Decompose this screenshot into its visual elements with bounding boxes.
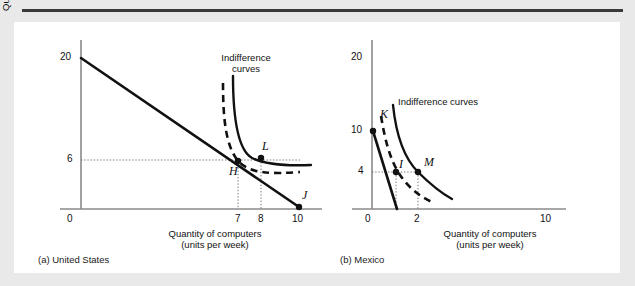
- mexico-indifference-curve-solid: [393, 105, 452, 199]
- mexico-ytick-4: 4: [358, 165, 364, 176]
- us-xtick-10: 10: [292, 213, 303, 224]
- us-xaxis-title: Quantity of computers (units per week): [140, 228, 290, 250]
- mexico-xtick-10: 10: [540, 213, 551, 224]
- mexico-point-endpoint: [370, 128, 376, 134]
- mexico-panel-caption: (b) Mexico: [340, 254, 384, 265]
- us-ppf: [81, 58, 299, 207]
- mexico-yaxis-title: Quantity of clothing (units per week): [0, 0, 11, 11]
- us-xtick-7: 7: [235, 213, 241, 224]
- mexico-ytick-10: 10: [351, 124, 362, 135]
- mexico-xaxis-title: Quantity of computers (units per week): [415, 228, 565, 250]
- mexico-point-label-M: M: [424, 155, 434, 170]
- mexico-axes: [352, 40, 566, 209]
- us-point-L: [258, 155, 264, 161]
- us-xtick-8: 8: [258, 213, 264, 224]
- us-ytick-20: 20: [60, 51, 71, 62]
- mexico-xaxis-title-line2: (units per week): [415, 239, 565, 250]
- us-point-label-J: J: [302, 188, 307, 203]
- mexico-xtick-2: 2: [414, 213, 420, 224]
- us-panel-caption: (a) United States: [38, 254, 109, 265]
- mexico-xtick-0: 0: [365, 213, 371, 224]
- us-xaxis-title-line1: Quantity of computers: [140, 228, 290, 239]
- mexico-indifference-curves-label: Indifference curves: [398, 96, 528, 107]
- us-ytick-6: 6: [67, 153, 73, 164]
- us-indifference-curve-solid: [233, 76, 311, 165]
- mexico-xaxis-title-line1: Quantity of computers: [415, 228, 565, 239]
- us-point-label-H: H: [229, 164, 238, 179]
- us-indifference-label-line1: Indifference: [196, 52, 296, 63]
- mexico-ytick-20: 20: [351, 51, 362, 62]
- mexico-indifference-label-line1: Indifference curves: [398, 96, 528, 107]
- us-ytick-0: 0: [67, 213, 73, 224]
- figure-root: Quantity of clothing (units per week) 20…: [0, 0, 635, 286]
- us-indifference-label-line2: curves: [196, 63, 296, 74]
- us-xaxis-title-line2: (units per week): [140, 239, 290, 250]
- mexico-ppf: [373, 131, 397, 209]
- us-point-label-L: L: [262, 139, 269, 154]
- mexico-point-M: [415, 169, 421, 175]
- us-point-J: [296, 204, 302, 210]
- us-indifference-curves-label: Indifference curves: [196, 52, 296, 74]
- mexico-point-label-K: K: [380, 107, 388, 122]
- mexico-point-label-I: I: [399, 157, 403, 172]
